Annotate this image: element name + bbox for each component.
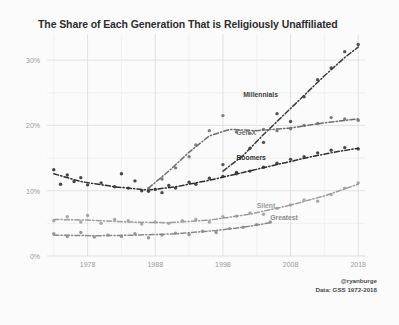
- data-point-silent: [66, 215, 69, 218]
- data-point-silent: [52, 219, 55, 222]
- credit-handle: @ryanburge: [315, 277, 377, 286]
- series-label-gen-x: Gen X: [236, 129, 256, 136]
- data-point-millennials: [221, 163, 224, 166]
- data-point-greatest: [133, 232, 136, 235]
- data-point-silent: [289, 203, 292, 206]
- data-point-greatest: [228, 227, 231, 230]
- data-point-greatest: [106, 233, 109, 236]
- data-point-silent: [262, 213, 265, 216]
- data-point-greatest: [201, 229, 204, 232]
- data-point-greatest: [93, 235, 96, 238]
- chart-figure: The Share of Each Generation That is Rel…: [0, 0, 399, 325]
- y-axis-tick-label: 0%: [14, 253, 40, 260]
- data-point-boomers: [140, 189, 143, 192]
- data-point-boomers: [357, 147, 360, 150]
- data-point-boomers: [289, 158, 292, 161]
- data-point-gen-x: [289, 127, 292, 130]
- x-axis-tick-label: 1988: [135, 261, 175, 268]
- data-point-boomers: [59, 182, 62, 185]
- data-point-silent: [126, 219, 129, 222]
- data-point-millennials: [275, 112, 278, 115]
- data-point-gen-x: [221, 114, 224, 117]
- data-point-millennials: [302, 95, 305, 98]
- data-point-silent: [329, 193, 332, 196]
- data-point-boomers: [275, 162, 278, 165]
- credit-source: Data: GSS 1972-2018: [315, 286, 377, 295]
- data-point-boomers: [302, 155, 305, 158]
- data-point-silent: [343, 186, 346, 189]
- x-axis-tick-label: 2008: [271, 261, 311, 268]
- data-point-millennials: [262, 141, 265, 144]
- data-point-boomers: [133, 179, 136, 182]
- data-point-boomers: [160, 191, 163, 194]
- data-point-gen-x: [329, 116, 332, 119]
- plot-area: [47, 34, 365, 256]
- data-point-millennials: [343, 50, 346, 53]
- data-point-boomers: [316, 151, 319, 154]
- y-axis-tick-label: 30%: [14, 57, 40, 64]
- plot-svg: [47, 34, 365, 256]
- data-point-silent: [154, 220, 157, 223]
- trend-line-boomers: [54, 148, 358, 190]
- data-point-gen-x: [262, 128, 265, 131]
- x-axis-tick-label: 1978: [68, 261, 108, 268]
- data-point-greatest: [52, 232, 55, 235]
- data-point-gen-x: [174, 166, 177, 169]
- data-point-silent: [302, 198, 305, 201]
- data-point-millennials: [329, 66, 332, 69]
- data-point-silent: [235, 214, 238, 217]
- data-point-greatest: [120, 235, 123, 238]
- data-point-millennials: [289, 120, 292, 123]
- data-point-boomers: [248, 169, 251, 172]
- data-point-silent: [248, 211, 251, 214]
- data-point-greatest: [160, 233, 163, 236]
- data-point-boomers: [329, 149, 332, 152]
- series-label-silent: Silent: [257, 202, 276, 209]
- y-axis-tick-label: 20%: [14, 122, 40, 129]
- data-point-greatest: [174, 231, 177, 234]
- credit-block: @ryanburge Data: GSS 1972-2018: [315, 277, 377, 295]
- data-point-greatest: [214, 231, 217, 234]
- series-label-millennials: Millennials: [243, 91, 278, 98]
- grid-minor: [47, 93, 365, 224]
- data-point-greatest: [147, 236, 150, 239]
- data-point-boomers: [221, 175, 224, 178]
- data-point-gen-x: [357, 118, 360, 121]
- chart-title: The Share of Each Generation That is Rel…: [38, 18, 338, 30]
- data-point-greatest: [66, 235, 69, 238]
- data-point-boomers: [343, 146, 346, 149]
- data-point-boomers: [208, 177, 211, 180]
- data-point-gen-x: [275, 129, 278, 132]
- data-point-boomers: [154, 188, 157, 191]
- y-axis-tick-label: 10%: [14, 187, 40, 194]
- x-axis-tick-label: 1998: [203, 261, 243, 268]
- data-point-boomers: [235, 171, 238, 174]
- data-point-boomers: [66, 173, 69, 176]
- data-point-silent: [221, 215, 224, 218]
- data-point-boomers: [113, 185, 116, 188]
- data-point-gen-x: [194, 143, 197, 146]
- data-point-greatest: [79, 231, 82, 234]
- data-point-gen-x: [302, 124, 305, 127]
- data-point-gen-x: [187, 155, 190, 158]
- data-point-gen-x: [160, 177, 163, 180]
- x-axis-tick-label: 2018: [338, 261, 378, 268]
- data-point-millennials: [357, 43, 360, 46]
- data-point-silent: [140, 222, 143, 225]
- data-point-gen-x: [343, 117, 346, 120]
- data-point-boomers: [187, 181, 190, 184]
- data-point-boomers: [174, 186, 177, 189]
- data-point-silent: [316, 199, 319, 202]
- data-point-boomers: [194, 182, 197, 185]
- series-label-greatest: Greatest: [270, 214, 298, 221]
- data-point-greatest: [187, 233, 190, 236]
- data-point-greatest: [255, 223, 258, 226]
- data-point-silent: [79, 220, 82, 223]
- data-point-millennials: [316, 78, 319, 81]
- data-point-greatest: [242, 226, 245, 229]
- data-point-silent: [99, 222, 102, 225]
- data-point-gen-x: [208, 129, 211, 132]
- data-point-silent: [86, 214, 89, 217]
- data-point-boomers: [120, 172, 123, 175]
- data-point-silent: [208, 220, 211, 223]
